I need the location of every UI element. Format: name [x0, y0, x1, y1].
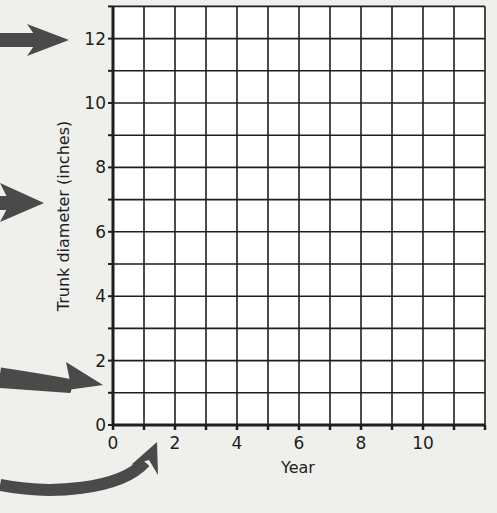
y-tick-label: 10 [84, 93, 106, 113]
x-tick-label: 2 [170, 433, 181, 453]
y-tick-label: 4 [95, 286, 106, 306]
y-tick-label: 8 [95, 157, 106, 177]
arrow-right-icon [0, 24, 69, 56]
chart: 024681012 0246810 Year Trunk diameter (i… [0, 0, 497, 513]
arrow-right-icon [0, 183, 44, 222]
x-tick-label: 8 [356, 433, 367, 453]
y-tick-label: 0 [95, 415, 106, 435]
x-tick-label: 10 [412, 433, 434, 453]
x-axis-title: Year [280, 458, 315, 477]
arrow-diagonal-icon [0, 362, 103, 393]
y-tick-label: 12 [84, 29, 106, 49]
x-tick-label: 6 [294, 433, 305, 453]
x-tick-label: 0 [108, 433, 119, 453]
x-tick-label: 4 [232, 433, 243, 453]
y-axis-title: Trunk diameter (inches) [54, 121, 73, 312]
arrow-curved-icon [0, 442, 158, 490]
y-tick-label: 2 [95, 351, 106, 371]
y-tick-label: 6 [95, 222, 106, 242]
y-axis-tick-labels: 024681012 [84, 29, 106, 435]
